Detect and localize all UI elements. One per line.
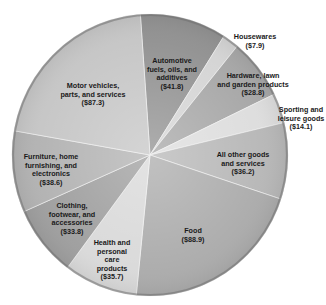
slice-label: Sporting andleisure goods($14.1) bbox=[278, 106, 325, 132]
slice-value: ($36.2) bbox=[217, 168, 270, 177]
slice-value: ($41.8) bbox=[147, 83, 197, 92]
slice-label: Motor vehicles,parts, and services($87.3… bbox=[60, 82, 125, 108]
slice-label: Food($88.9) bbox=[182, 227, 205, 244]
slice-label: Housewares($7.9) bbox=[234, 33, 276, 50]
slice-label: Furniture, homefurnishing, andelectronic… bbox=[24, 153, 79, 187]
slice-label: All other goodsand services($36.2) bbox=[217, 151, 270, 177]
slice-label: Automotivefuels, oils, andadditives($41.… bbox=[147, 57, 197, 91]
slice-value: ($35.7) bbox=[94, 273, 131, 282]
slice-value: ($14.1) bbox=[278, 123, 325, 132]
slice-value: ($87.3) bbox=[60, 99, 125, 108]
slice-value: ($38.6) bbox=[24, 179, 79, 188]
slice-label: Clothing,footwear, andaccessories($33.8) bbox=[49, 202, 95, 236]
slice-label: Hardware, lawnand garden products($28.8) bbox=[217, 72, 288, 98]
slice-label: Health andpersonalcareproducts($35.7) bbox=[94, 239, 131, 282]
slice-value: ($88.9) bbox=[182, 236, 205, 245]
slice-value: ($7.9) bbox=[234, 42, 276, 51]
slice-value: ($33.8) bbox=[49, 228, 95, 237]
slice-value: ($28.8) bbox=[217, 89, 288, 98]
